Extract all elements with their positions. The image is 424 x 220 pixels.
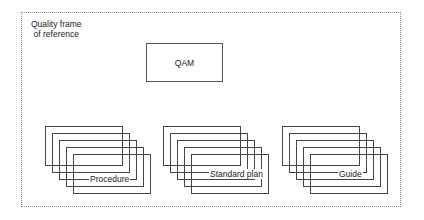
frame-title-line1: Quality frame — [31, 19, 82, 29]
qam-box: QAM — [146, 43, 223, 82]
frame-title-line2: of reference — [31, 29, 82, 39]
procedure-label: Procedure — [89, 174, 130, 184]
guide-label: Guide — [338, 169, 363, 179]
standard-plan-label: Standard plan — [209, 169, 264, 179]
qam-label: QAM — [175, 58, 194, 68]
frame-title: Quality frame of reference — [31, 19, 82, 39]
